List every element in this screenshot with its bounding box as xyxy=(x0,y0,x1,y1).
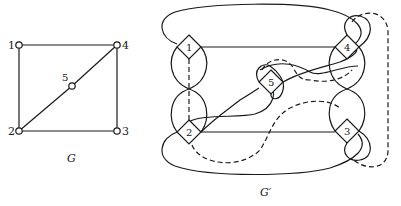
edge-2-5-curve xyxy=(201,88,259,132)
node-label-4: 4 xyxy=(122,39,129,52)
gadget-label-2: 2 xyxy=(186,127,192,138)
node-1 xyxy=(16,42,22,48)
gadget-label-4: 4 xyxy=(344,42,350,53)
graph-g-prime: 1 2 5 4 3 G′ xyxy=(162,4,388,199)
figure: 1 4 2 3 5 G xyxy=(0,0,401,206)
caption-g: G xyxy=(67,152,76,165)
edge-5-mid-curve xyxy=(260,64,358,74)
edge-2-4-curve xyxy=(189,82,274,122)
node-label-2: 2 xyxy=(8,125,15,138)
node-3 xyxy=(114,128,120,134)
node-label-1: 1 xyxy=(8,39,15,52)
graph-g: 1 4 2 3 5 G xyxy=(8,39,129,165)
node-label-5: 5 xyxy=(62,72,68,83)
gadget-label-5: 5 xyxy=(268,77,274,88)
edge-2-5 xyxy=(19,86,72,131)
gadget-label-3: 3 xyxy=(344,126,350,137)
edge-5-4 xyxy=(72,45,117,86)
node-5 xyxy=(69,83,75,89)
node-2 xyxy=(16,128,22,134)
caption-g-prime: G′ xyxy=(260,186,272,199)
node-label-3: 3 xyxy=(122,125,129,138)
node-4 xyxy=(114,42,120,48)
gadget-label-1: 1 xyxy=(186,42,192,53)
